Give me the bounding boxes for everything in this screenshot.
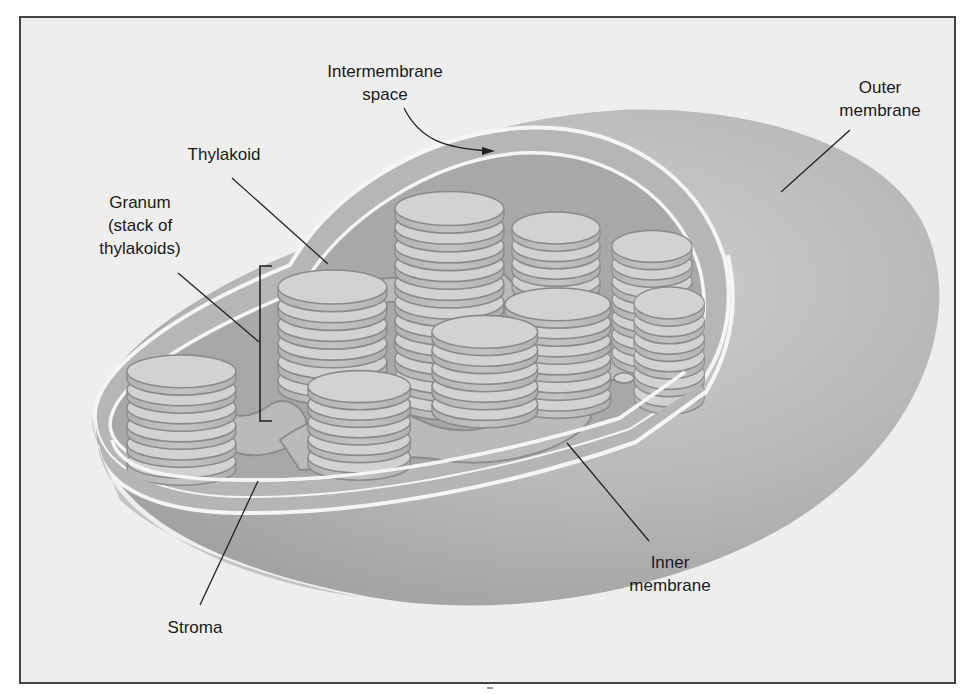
label-granum-line1: Granum — [80, 191, 200, 214]
label-granum: Granum (stack of thylakoids) — [80, 191, 200, 260]
label-outer-line1: Outer — [820, 76, 940, 99]
label-inner-line2: membrane — [610, 574, 730, 597]
label-intermembrane-line1: Intermembrane — [310, 60, 460, 83]
label-outer-membrane: Outer membrane — [820, 76, 940, 122]
label-outer-line2: membrane — [820, 99, 940, 122]
label-stroma-line1: Stroma — [155, 616, 235, 639]
label-granum-line2: (stack of — [80, 214, 200, 237]
label-inner-membrane: Inner membrane — [610, 551, 730, 597]
label-inner-line1: Inner — [610, 551, 730, 574]
granum-front-left — [127, 355, 236, 485]
label-thylakoid-line1: Thylakoid — [174, 143, 274, 166]
label-intermembrane-line2: space — [310, 83, 460, 106]
label-intermembrane-space: Intermembrane space — [310, 60, 460, 106]
label-stroma: Stroma — [155, 616, 235, 639]
label-granum-line3: thylakoids) — [80, 237, 200, 260]
granum-front-mid — [308, 371, 410, 481]
small-thylakoid — [614, 373, 634, 383]
label-thylakoid: Thylakoid — [174, 143, 274, 166]
granum-front-center — [432, 315, 538, 427]
